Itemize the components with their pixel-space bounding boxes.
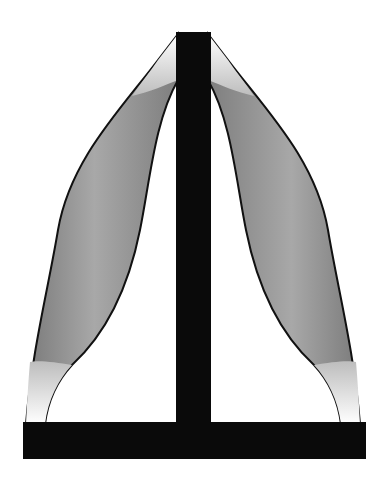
vertical-post <box>176 32 211 427</box>
left-tendon-bottom <box>26 361 72 424</box>
left-muscle <box>26 34 178 424</box>
base-plate <box>23 422 366 459</box>
right-muscle <box>208 34 360 424</box>
muscle-diagram <box>0 0 386 483</box>
